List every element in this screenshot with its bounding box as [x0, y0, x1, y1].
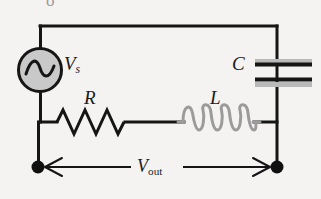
inductor-coil	[183, 105, 256, 130]
inductor-symbol	[178, 105, 260, 130]
capacitor-symbol	[255, 59, 312, 87]
node-right-terminal	[271, 161, 284, 174]
ac-source-symbol	[19, 49, 62, 92]
label-output-voltage-sub: out	[148, 165, 163, 177]
label-source-voltage: Vs	[64, 54, 80, 76]
label-output-voltage-main: V	[137, 156, 148, 176]
resistor-symbol	[57, 110, 124, 134]
label-capacitor: C	[232, 54, 245, 73]
capacitor-plate-bottom-shadow	[255, 82, 312, 87]
label-output-voltage: Vout	[137, 157, 163, 177]
label-inductor: L	[210, 88, 221, 107]
label-source-voltage-main: V	[64, 53, 76, 74]
label-source-voltage-sub: s	[76, 63, 81, 76]
resistor-zigzag	[57, 110, 124, 134]
wire-loop	[39, 26, 278, 166]
node-left-terminal	[32, 161, 45, 174]
circuit-diagram-canvas: o	[0, 0, 321, 199]
label-resistor: R	[84, 88, 96, 107]
